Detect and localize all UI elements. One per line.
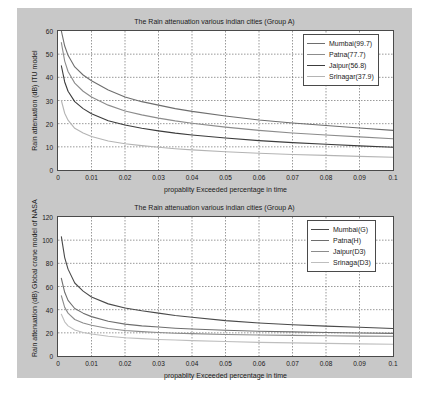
data-series-line: [61, 101, 393, 158]
legend-item[interactable]: Mumbai(G): [311, 224, 371, 235]
x-tick-label: 0.01: [80, 174, 104, 181]
legend-line-swatch: [307, 65, 325, 66]
legend-item[interactable]: Jaipur(56.8): [307, 60, 374, 71]
x-tick-label: 0: [46, 360, 70, 367]
x-tick-label: 0.04: [180, 174, 204, 181]
legend-line-swatch: [311, 240, 329, 241]
legend-line-swatch: [307, 76, 325, 77]
legend-item[interactable]: Patna(H): [311, 235, 371, 246]
x-tick-label: 0.02: [113, 174, 137, 181]
chart-title-crane: The Rain attenuation various indian citi…: [17, 204, 412, 211]
legend-item[interactable]: Jaipur(D3): [311, 246, 371, 257]
legend-item[interactable]: Srinaga(D3): [311, 257, 371, 268]
x-tick-label: 0.07: [281, 174, 305, 181]
x-axis-label-itu: propablity Exceeded percentage in time: [57, 186, 394, 193]
x-tick-label: 0.03: [147, 174, 171, 181]
x-tick-label: 0.1: [381, 174, 405, 181]
x-tick-label: 0.04: [180, 360, 204, 367]
legend-item-label: Jaipur(56.8): [329, 62, 366, 69]
x-tick-label: 0.08: [314, 360, 338, 367]
legend-item-label: Mumbai(G): [333, 226, 368, 233]
legend-line-swatch: [311, 251, 329, 252]
legend-item-label: Srinagar(37.9): [329, 73, 374, 80]
x-tick-label: 0.05: [214, 360, 238, 367]
legend-item-label: Srinaga(D3): [333, 259, 371, 266]
legend-item[interactable]: Srinagar(37.9): [307, 71, 374, 82]
x-tick-label: 0.09: [348, 360, 372, 367]
x-axis-ticks-crane: 00.010.020.030.040.050.060.070.080.090.1: [57, 360, 394, 372]
x-tick-label: 0.05: [214, 174, 238, 181]
legend-item-label: Mumbai(99.7): [329, 40, 372, 47]
x-tick-label: 0.07: [281, 360, 305, 367]
x-tick-label: 0.06: [247, 360, 271, 367]
chart-title-itu: The Rain attenuation various indian citi…: [17, 18, 412, 25]
y-axis-label-crane: Rain attenuation (dB) Global crane model…: [31, 216, 38, 357]
legend-item-label: Patna(77.7): [329, 51, 366, 58]
x-tick-label: 0.01: [80, 360, 104, 367]
x-tick-label: 0: [46, 174, 70, 181]
legend-line-swatch: [307, 54, 325, 55]
legend-item-label: Patna(H): [333, 237, 361, 244]
legend-item[interactable]: Patna(77.7): [307, 49, 374, 60]
x-tick-label: 0.02: [113, 360, 137, 367]
y-axis-label-itu: Rain attenuation (dB) ITU model: [31, 30, 38, 171]
legend-item[interactable]: Mumbai(99.7): [307, 38, 374, 49]
legend-crane: Mumbai(G)Patna(H)Jaipur(D3)Srinaga(D3): [307, 220, 376, 272]
legend-item-label: Jaipur(D3): [333, 248, 366, 255]
x-tick-label: 0.03: [147, 360, 171, 367]
x-tick-label: 0.09: [348, 174, 372, 181]
legend-line-swatch: [311, 229, 329, 230]
x-tick-label: 0.06: [247, 174, 271, 181]
x-axis-ticks-itu: 00.010.020.030.040.050.060.070.080.090.1: [57, 174, 394, 186]
legend-itu: Mumbai(99.7)Patna(77.7)Jaipur(56.8)Srina…: [303, 34, 379, 86]
legend-line-swatch: [307, 43, 325, 44]
x-tick-label: 0.1: [381, 360, 405, 367]
x-tick-label: 0.08: [314, 174, 338, 181]
x-axis-label-crane: propablity Exceeded percentage in time: [57, 372, 394, 379]
legend-line-swatch: [311, 262, 329, 263]
matlab-figure-canvas: The Rain attenuation various indian citi…: [17, 8, 412, 378]
